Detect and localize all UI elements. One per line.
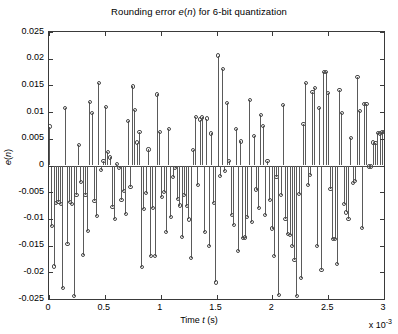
data-point-marker (74, 193, 78, 197)
stem-line (71, 166, 72, 204)
figure-canvas: Rounding error e(n) for 6-bit quantizati… (0, 0, 398, 334)
data-point-marker (95, 214, 99, 218)
data-point-marker (153, 254, 157, 258)
data-point-marker (61, 286, 65, 290)
data-point-marker (346, 217, 350, 221)
stem-line (260, 115, 261, 166)
stem-line (299, 166, 300, 195)
data-point-marker (319, 268, 323, 272)
stem-line (314, 88, 315, 165)
stem-line (323, 72, 324, 165)
ylabel-var-n: n (3, 152, 13, 157)
data-point-marker (349, 136, 353, 140)
ylabel-var-e: e (3, 160, 13, 165)
stem-line (96, 166, 97, 216)
y-tick-label: 0.025 (0, 27, 44, 36)
data-point-marker (279, 193, 283, 197)
data-point-marker (261, 124, 265, 128)
data-point-marker (355, 75, 359, 79)
data-point-marker (205, 116, 209, 120)
y-tick-label: -0.025 (0, 294, 44, 303)
data-point-marker (137, 130, 141, 134)
data-point-marker (164, 230, 168, 234)
stem-line (377, 133, 378, 166)
stem-line (112, 166, 113, 208)
stem-line (150, 166, 151, 256)
data-point-marker (243, 235, 247, 239)
y-tick-label: -0.02 (0, 267, 44, 276)
y-tick-label: -0.005 (0, 187, 44, 196)
x-multiplier-base: x 10 (369, 320, 386, 330)
data-point-marker (306, 183, 310, 187)
stem-line (251, 166, 252, 223)
x-multiplier-exponent: -3 (386, 318, 392, 325)
stem-line (184, 166, 185, 196)
y-tick (49, 272, 53, 273)
x-tick-label: 2.5 (307, 303, 347, 312)
stem-line (51, 166, 52, 227)
y-tick (380, 59, 384, 60)
data-point-marker (196, 183, 200, 187)
stem-line (359, 111, 360, 165)
stem-line (155, 166, 156, 256)
x-tick (328, 295, 329, 299)
stem-line (166, 166, 167, 233)
stem-line (274, 166, 275, 257)
stem-line (182, 166, 183, 238)
data-point-marker (142, 207, 146, 211)
data-point-marker (313, 86, 317, 90)
stem-line (341, 113, 342, 165)
data-point-marker (113, 217, 117, 221)
stem-line (242, 166, 243, 239)
data-point-marker (218, 174, 222, 178)
stem-line (85, 166, 86, 195)
y-tick (49, 85, 53, 86)
data-point-marker (239, 139, 243, 143)
stem-line (233, 166, 234, 226)
data-point-marker (160, 195, 164, 199)
data-point-marker (88, 100, 92, 104)
data-point-marker (272, 254, 276, 258)
data-point-marker (232, 223, 236, 227)
stem-line (130, 166, 131, 188)
stem-line (143, 166, 144, 210)
data-point-marker (63, 106, 67, 110)
data-point-marker (281, 103, 285, 107)
stem-line (326, 72, 327, 165)
y-tick (49, 299, 53, 300)
stem-line (125, 166, 126, 215)
stem-line (218, 56, 219, 166)
y-axis-label: e(n) (3, 135, 13, 179)
stem-line (92, 113, 93, 166)
stem-line (186, 166, 187, 207)
stem-line (60, 166, 61, 204)
data-point-marker (308, 173, 312, 177)
data-point-marker (353, 179, 357, 183)
data-point-marker (144, 191, 148, 195)
data-point-marker (65, 242, 69, 246)
stem-line (177, 166, 178, 200)
data-point-marker (48, 124, 52, 128)
stem-line (294, 166, 295, 261)
chart-title: Rounding error e(n) for 6-bit quantizati… (0, 6, 398, 17)
data-point-marker (203, 230, 207, 234)
data-point-marker (295, 294, 299, 298)
data-point-marker (227, 159, 231, 163)
x-tick (328, 32, 329, 36)
stem-line (335, 166, 336, 239)
stem-line (348, 166, 349, 219)
stem-line (337, 166, 338, 264)
data-point-marker (128, 185, 132, 189)
stem-line (193, 150, 194, 165)
stem-line (283, 105, 284, 165)
x-tick (49, 32, 50, 36)
x-tick-label: 2 (251, 303, 291, 312)
y-tick-label: 0.015 (0, 80, 44, 89)
data-point-marker (234, 127, 238, 131)
x-tick (384, 295, 385, 299)
y-tick (380, 192, 384, 193)
x-tick (161, 295, 162, 299)
data-point-marker (304, 81, 308, 85)
data-point-marker (250, 220, 254, 224)
stem-line (76, 166, 77, 196)
